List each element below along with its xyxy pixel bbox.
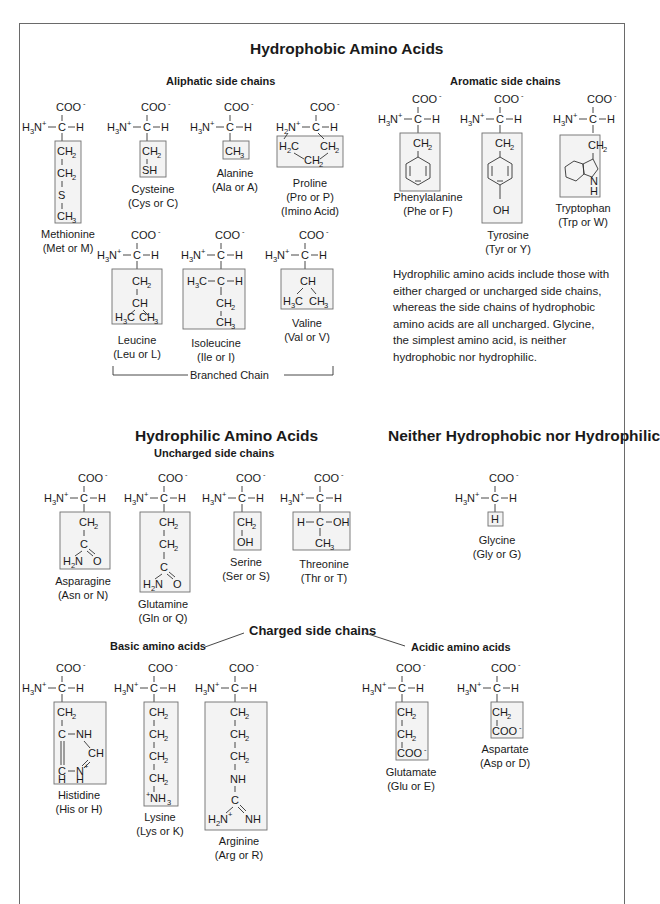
structure-aspartate: COO- — [457, 660, 523, 738]
svg-text:C: C — [127, 311, 135, 323]
svg-text:OH: OH — [333, 516, 350, 528]
svg-text:H: H — [491, 513, 499, 525]
svg-text:C: C — [160, 561, 168, 573]
label-asparagine: Asparagine(Asn or N) — [55, 574, 111, 602]
label-tryptophan: Tryptophan(Trp or W) — [555, 201, 610, 229]
svg-text:C: C — [217, 275, 225, 287]
structure-methionine: S — [22, 99, 86, 225]
svg-text:C: C — [231, 794, 239, 806]
svg-text:H: H — [208, 813, 216, 825]
svg-text:-: - — [337, 99, 340, 108]
label-valine: Valine(Val or V) — [284, 316, 330, 344]
svg-text:N: N — [288, 121, 296, 133]
svg-text:COO: COO — [397, 747, 423, 759]
label-glycine: Glycine(Gly or G) — [473, 533, 521, 561]
label-glutamate: Glutamate(Glu or E) — [386, 765, 437, 793]
svg-text:H: H — [297, 516, 305, 528]
svg-text:COO: COO — [310, 101, 336, 113]
structure-tyrosine: OH — [460, 91, 524, 223]
structure-arginine: NH C H2N+ NH — [195, 660, 267, 830]
structure-leucine: CH H3C — [97, 227, 162, 326]
svg-text:H: H — [58, 773, 66, 785]
label-cysteine: Cysteine(Cys or C) — [128, 182, 178, 210]
structure-glutamate: COO- — [362, 660, 428, 760]
svg-text:CH: CH — [132, 297, 148, 309]
structure-proline: COO- H2N+ C H H2C — [276, 99, 343, 169]
label-methionine: Methionine(Met or M) — [41, 227, 95, 255]
svg-text:O: O — [93, 555, 102, 567]
label-proline: Proline(Pro or P)(Imino Acid) — [281, 176, 339, 218]
svg-text:OH: OH — [493, 204, 510, 216]
label-alanine: Alanine(Ala or A) — [212, 166, 258, 194]
structure-phenylalanine — [378, 91, 442, 191]
svg-text:C: C — [312, 121, 320, 133]
svg-text:OH: OH — [237, 536, 254, 548]
svg-text:C: C — [80, 538, 88, 550]
svg-text:H: H — [590, 185, 598, 197]
svg-text:H: H — [187, 275, 195, 287]
structure-glycine: H — [455, 470, 519, 526]
structure-isoleucine: H3C C H — [181, 227, 245, 331]
branched-chain-bracket — [113, 366, 188, 375]
svg-text:NH: NH — [150, 792, 166, 804]
svg-text:NH: NH — [76, 728, 92, 740]
svg-text:N: N — [75, 555, 83, 567]
svg-text:CH: CH — [88, 747, 104, 759]
svg-text:3: 3 — [167, 798, 171, 807]
svg-text:C: C — [58, 728, 66, 740]
svg-text:H: H — [279, 140, 287, 152]
svg-text:H: H — [63, 555, 71, 567]
svg-text:CH: CH — [300, 275, 316, 287]
svg-text:C: C — [295, 295, 303, 307]
label-phenylalanine: Phenylalanine(Phe or F) — [393, 190, 462, 218]
svg-text:H: H — [276, 121, 284, 133]
svg-text:NH: NH — [245, 813, 261, 825]
svg-text:C: C — [291, 140, 299, 152]
structure-histidine: C NH CH C N+ HH — [22, 660, 106, 785]
structure-asparagine: C H2N O — [44, 470, 110, 570]
svg-text:C: C — [199, 275, 207, 287]
structure-alanine — [190, 99, 254, 160]
branched-chain-label: Branched Chain — [190, 369, 269, 381]
structure-cysteine: SH — [107, 99, 171, 177]
label-lysine: Lysine(Lys or K) — [136, 810, 183, 838]
structure-tryptophan: NH — [553, 91, 617, 197]
svg-text:H: H — [76, 773, 84, 785]
label-threonine: Threonine(Thr or T) — [299, 557, 349, 585]
structure-lysine: +NH3 — [114, 660, 178, 807]
svg-text:O: O — [173, 578, 182, 590]
svg-text:H: H — [143, 578, 151, 590]
label-histidine: Histidine(His or H) — [55, 788, 102, 816]
svg-text:H: H — [115, 311, 123, 323]
label-tyrosine: Tyrosine(Tyr or Y) — [485, 228, 531, 256]
svg-text:SH: SH — [142, 164, 157, 176]
label-aspartate: Aspartate(Asp or D) — [480, 742, 530, 770]
svg-text:C: C — [316, 516, 324, 528]
structure-threonine: H C OH — [280, 470, 350, 552]
svg-text:H: H — [330, 121, 338, 133]
svg-text:+: + — [84, 762, 89, 771]
label-arginine: Arginine(Arg or R) — [215, 834, 263, 862]
structure-serine: OH — [202, 470, 266, 550]
svg-text:H: H — [283, 295, 291, 307]
svg-text:H: H — [235, 275, 243, 287]
label-leucine: Leucine(Leu or L) — [113, 333, 161, 361]
svg-text:+: + — [228, 810, 233, 819]
label-serine: Serine(Ser or S) — [222, 555, 270, 583]
svg-text:N: N — [155, 578, 163, 590]
structure-valine: CH H3C — [265, 227, 333, 310]
svg-text:S: S — [58, 189, 65, 201]
label-glutamine: Glutamine(Gln or Q) — [138, 597, 188, 625]
structure-glutamine: C H2N O — [124, 470, 190, 593]
svg-text:N: N — [220, 813, 228, 825]
label-isoleucine: Isoleucine(Ile or I) — [191, 336, 241, 364]
svg-text:+: + — [296, 119, 301, 128]
svg-text:NH: NH — [230, 773, 246, 785]
svg-text:COO: COO — [492, 725, 518, 737]
